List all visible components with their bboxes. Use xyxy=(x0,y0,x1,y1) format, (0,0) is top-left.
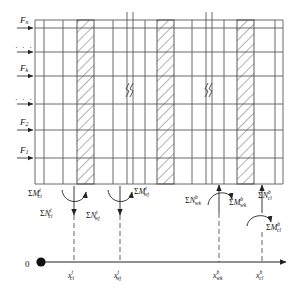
shear-wall-2 xyxy=(157,20,174,184)
story-force-label-F2: F2 xyxy=(19,117,29,128)
story-force-labels: Fn · · · Fk · · · F2 F1 xyxy=(15,15,33,156)
story-force-label-Fk: Fk xyxy=(19,63,29,74)
reaction-moment-label-wj: ΣMtwj xyxy=(134,185,150,197)
reaction-column-l-bottom: ΣNbcl ΣMbcl xyxy=(247,185,282,262)
shear-walls xyxy=(77,20,254,184)
x-tick-label-wk: xbwk xyxy=(212,269,223,281)
x-sub-wk: wk xyxy=(216,275,223,281)
x-axis-tick-labels: xtci xtwj xbwk xbcl xyxy=(67,269,264,281)
story-force-label-Fn: Fn xyxy=(19,15,29,26)
reaction-wall-k-bottom: ΣNbwk ΣMbwk xyxy=(185,185,247,262)
reaction-moment-label-wk: ΣMbwk xyxy=(229,196,247,208)
structural-frame-diagram: Fn · · · Fk · · · F2 F1 ΣMtci ΣNtci ΣM xyxy=(0,0,296,294)
reaction-column-i-top: ΣMtci ΣNtci xyxy=(28,186,86,262)
moment-sub-wj: wj xyxy=(144,191,150,197)
x-sub-ci: ci xyxy=(70,275,74,281)
reaction-moment-label-ci: ΣMtci xyxy=(28,187,42,199)
reaction-moment-label-cl: ΣMbcl xyxy=(266,221,282,233)
story-force-sub-Fk: k xyxy=(26,68,29,74)
story-force-label-dots1: · · · xyxy=(15,43,33,52)
shear-wall-1 xyxy=(77,20,94,184)
reaction-wall-j-top: ΣMtwj ΣNtwj xyxy=(86,185,150,262)
axial-sub-wj: wj xyxy=(95,215,101,221)
frame-group xyxy=(35,12,283,184)
moment-sub-wk: wk xyxy=(240,202,247,208)
story-force-sub-F1: 1 xyxy=(26,150,29,156)
axial-sub-wk: wk xyxy=(195,200,202,206)
x-tick-label-cl: xbcl xyxy=(255,269,264,281)
reaction-axial-label-cl: ΣNbcl xyxy=(258,189,272,201)
x-sub-cl: cl xyxy=(259,275,263,281)
axial-sub-ci: ci xyxy=(49,213,53,219)
axial-sub-cl: cl xyxy=(268,195,272,201)
x-tick-label-wj: xtwj xyxy=(113,269,122,281)
x-tick-label-ci: xtci xyxy=(67,269,75,281)
story-force-sub-Fn: n xyxy=(26,20,29,26)
reaction-axial-label-wk: ΣNbwk xyxy=(185,194,201,206)
origin-dot xyxy=(36,257,45,266)
reaction-axial-label-wj: ΣNtwj xyxy=(86,209,100,221)
moment-sub-ci: ci xyxy=(38,193,42,199)
shear-wall-3 xyxy=(237,20,254,184)
story-force-label-F1: F1 xyxy=(19,145,29,156)
moment-sub-cl: cl xyxy=(277,227,281,233)
reaction-axial-label-ci: ΣNtci xyxy=(40,207,53,219)
x-sub-wj: wj xyxy=(116,275,122,281)
story-force-sub-F2: 2 xyxy=(26,122,29,128)
story-force-label-dots2: · · · xyxy=(15,95,33,104)
x-axis-group: 0 xyxy=(25,257,286,269)
origin-label: 0 xyxy=(25,259,30,269)
